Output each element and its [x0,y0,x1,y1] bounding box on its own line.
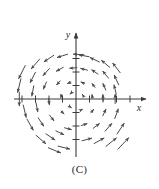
x-axis-label: x [136,102,142,113]
field-vector [67,82,71,84]
field-vector [114,85,116,95]
field-vector [36,135,46,144]
field-vector [58,146,70,149]
field-vector [57,54,68,57]
field-vector [43,82,46,90]
field-vector [103,71,109,78]
field-vector [56,81,60,85]
field-vector [103,83,106,90]
field-vector [61,94,62,98]
field-vector [69,68,77,69]
field-vector [49,115,54,121]
field-vector [80,109,83,110]
field-vector [94,138,105,144]
field-vector [27,119,33,131]
field-vector [19,65,26,79]
field-vector [106,138,117,147]
vector-field-plot: x y [0,0,159,189]
field-vector [43,68,50,75]
field-vector [38,118,44,127]
field-vector [92,94,93,98]
field-vector [92,70,99,75]
field-vector [91,109,94,113]
field-vector [70,106,72,107]
field-vector [113,63,121,73]
field-vector [30,72,35,83]
field-vector [49,98,50,105]
field-vector [115,109,119,119]
field-vector [56,67,63,71]
field-vector [117,123,124,134]
field-vector [81,124,87,126]
field-vector [61,111,64,114]
field-vector [36,102,38,112]
field-vector [64,128,71,130]
field-vector [46,134,56,140]
field-vector [101,60,110,67]
field-vector [44,55,54,62]
field-vector [82,138,92,141]
vector-field-figure: x y (C) [0,0,159,189]
axes: x y [14,29,146,157]
field-vector [93,123,100,128]
field-vector [32,85,34,96]
field-vector [114,75,119,85]
field-vector [92,83,95,87]
field-vector [80,68,87,70]
field-vector [118,138,129,150]
field-vector [18,78,21,92]
field-vector [23,105,26,118]
field-vector [105,123,112,131]
field-vector [70,93,71,94]
vector-arrows [18,54,129,153]
field-vector [103,109,106,116]
field-vector [56,131,65,135]
figure-caption: (C) [0,163,159,175]
field-vector [81,82,85,84]
field-vector [31,59,40,69]
field-vector [90,57,100,62]
y-axis-label: y [65,29,71,40]
field-vector [48,148,61,153]
field-vector [82,94,83,96]
